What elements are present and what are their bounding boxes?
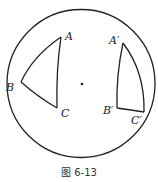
triangle-abc: [21, 37, 61, 108]
label-a: A: [64, 30, 73, 43]
arc-c-a-prime: [123, 43, 144, 112]
label-b-prime: B′: [102, 104, 114, 117]
label-a-prime: A′: [108, 34, 120, 47]
triangle-a-b-c-prime: [117, 43, 144, 112]
arc-bc: [21, 82, 57, 108]
arc-ab: [21, 37, 61, 82]
figure-caption: 图 6-13: [0, 164, 158, 179]
center-point: [81, 83, 84, 86]
arc-ca: [57, 37, 61, 108]
arc-b-c-prime: [117, 108, 144, 112]
label-b: B: [5, 81, 14, 94]
arc-a-b-prime: [117, 43, 123, 108]
label-c-prime: C′: [131, 114, 142, 127]
spherical-triangles-diagram: A B C A′ B′ C′: [0, 0, 158, 182]
label-c: C: [61, 107, 70, 120]
